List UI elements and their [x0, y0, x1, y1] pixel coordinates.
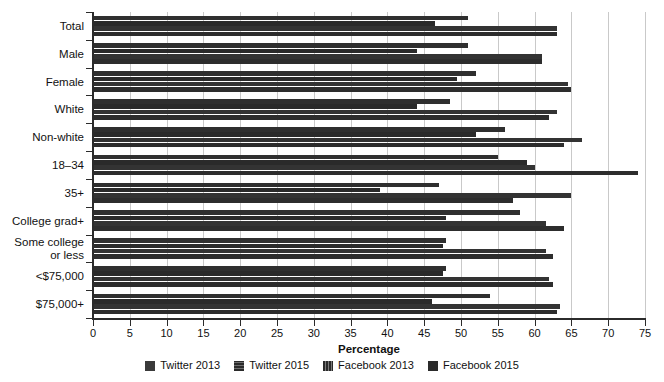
y-tick-3	[86, 95, 92, 96]
x-tick-25	[277, 320, 278, 326]
legend-label-2: Facebook 2013	[338, 360, 414, 371]
x-tick-label-65: 65	[565, 327, 577, 339]
x-tick-label-75: 75	[639, 327, 651, 339]
x-tick-label-40: 40	[381, 327, 393, 339]
bar-twitter-2015-2	[93, 77, 457, 82]
x-tick-label-35: 35	[344, 327, 356, 339]
category-label-1: Male	[0, 47, 84, 60]
bar-facebook-2013-1	[93, 54, 542, 59]
y-tick-0	[86, 12, 92, 13]
x-tick-label-20: 20	[234, 327, 246, 339]
bar-facebook-2015-7	[93, 226, 564, 231]
x-tick-label-50: 50	[455, 327, 467, 339]
bar-twitter-2013-1	[93, 43, 468, 48]
category-label-7: College grad+	[0, 214, 84, 227]
y-tick-1	[86, 40, 92, 41]
x-tick-label-0: 0	[90, 327, 96, 339]
bar-facebook-2013-8	[93, 249, 546, 254]
chart-legend: Twitter 2013Twitter 2015Facebook 2013Fac…	[0, 360, 664, 371]
gridline-70	[608, 12, 609, 318]
bar-facebook-2013-3	[93, 110, 557, 115]
category-label-9: <$75,000	[0, 270, 84, 283]
bar-twitter-2015-0	[93, 21, 435, 26]
category-label-0: Total	[0, 20, 84, 33]
bar-facebook-2015-10	[93, 310, 557, 315]
legend-item-3[interactable]: Facebook 2015	[428, 360, 519, 371]
bar-facebook-2013-10	[93, 304, 560, 309]
legend-swatch-icon-0	[145, 361, 155, 371]
bar-facebook-2013-4	[93, 138, 582, 143]
bar-facebook-2015-3	[93, 115, 549, 120]
x-tick-label-70: 70	[602, 327, 614, 339]
x-tick-35	[351, 320, 352, 326]
bar-facebook-2015-8	[93, 254, 553, 259]
bar-twitter-2013-6	[93, 183, 439, 188]
legend-label-0: Twitter 2013	[160, 360, 220, 371]
bar-facebook-2013-5	[93, 165, 535, 170]
bar-twitter-2013-4	[93, 127, 505, 132]
x-tick-10	[167, 320, 168, 326]
bar-twitter-2015-6	[93, 188, 380, 193]
bar-facebook-2015-5	[93, 171, 638, 176]
x-tick-5	[130, 320, 131, 326]
bar-twitter-2015-10	[93, 299, 432, 304]
y-tick-2	[86, 68, 92, 69]
category-label-5: 18–34	[0, 159, 84, 172]
x-tick-label-60: 60	[528, 327, 540, 339]
bar-facebook-2015-4	[93, 143, 564, 148]
bar-facebook-2013-9	[93, 277, 549, 282]
bar-twitter-2015-5	[93, 160, 527, 165]
x-tick-label-5: 5	[127, 327, 133, 339]
bar-twitter-2013-10	[93, 294, 490, 299]
legend-item-0[interactable]: Twitter 2013	[145, 360, 220, 371]
bar-twitter-2013-0	[93, 16, 468, 21]
legend-swatch-icon-2	[323, 361, 333, 371]
bar-facebook-2015-9	[93, 282, 553, 287]
x-tick-15	[203, 320, 204, 326]
x-tick-70	[608, 320, 609, 326]
category-label-4: Non-white	[0, 131, 84, 144]
x-tick-65	[571, 320, 572, 326]
x-tick-label-30: 30	[308, 327, 320, 339]
x-axis-title: Percentage	[93, 343, 645, 355]
x-tick-75	[645, 320, 646, 326]
x-tick-label-15: 15	[197, 327, 209, 339]
bar-twitter-2013-2	[93, 71, 476, 76]
x-tick-45	[424, 320, 425, 326]
bar-twitter-2013-8	[93, 238, 446, 243]
x-tick-20	[240, 320, 241, 326]
x-tick-40	[387, 320, 388, 326]
legend-swatch-icon-3	[428, 361, 438, 371]
legend-item-1[interactable]: Twitter 2015	[234, 360, 309, 371]
legend-label-1: Twitter 2015	[249, 360, 309, 371]
category-label-6: 35+	[0, 187, 84, 200]
bar-twitter-2015-1	[93, 49, 417, 54]
x-tick-0	[93, 320, 94, 326]
y-tick-7	[86, 207, 92, 208]
legend-item-2[interactable]: Facebook 2013	[323, 360, 414, 371]
bar-twitter-2013-9	[93, 266, 446, 271]
y-tick-end	[86, 318, 92, 319]
y-tick-9	[86, 262, 92, 263]
y-tick-6	[86, 179, 92, 180]
bar-twitter-2015-3	[93, 104, 417, 109]
x-tick-label-45: 45	[418, 327, 430, 339]
legend-label-3: Facebook 2015	[443, 360, 519, 371]
grouped-bar-chart: TotalMaleFemaleWhiteNon-white18–3435+Col…	[0, 0, 664, 382]
bar-facebook-2015-2	[93, 87, 571, 92]
bar-twitter-2015-8	[93, 244, 443, 249]
y-tick-8	[86, 235, 92, 236]
x-axis-spine	[92, 318, 646, 320]
category-label-8: Some college or less	[0, 236, 84, 261]
category-label-3: White	[0, 103, 84, 116]
bar-facebook-2015-0	[93, 32, 557, 37]
x-tick-label-25: 25	[271, 327, 283, 339]
x-tick-label-55: 55	[492, 327, 504, 339]
x-tick-60	[535, 320, 536, 326]
bar-facebook-2013-2	[93, 82, 568, 87]
bar-facebook-2015-1	[93, 59, 542, 64]
bar-facebook-2013-7	[93, 221, 546, 226]
plot-area	[93, 12, 645, 318]
y-tick-10	[86, 290, 92, 291]
y-axis-spine	[92, 12, 94, 319]
